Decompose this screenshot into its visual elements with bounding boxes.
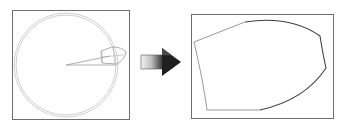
diagram-canvas [0,0,343,132]
transform-arrow-icon [141,48,181,76]
right-panel [192,15,334,119]
right-frame [192,15,334,119]
left-panel [13,11,130,120]
